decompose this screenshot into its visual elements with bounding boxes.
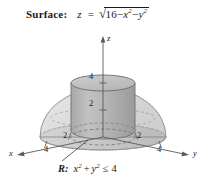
axis-label-z: z <box>107 33 110 43</box>
caption-x-exponent: 2 <box>78 162 82 170</box>
caption-y-exponent: 2 <box>96 162 100 170</box>
z-tick-2: 2 <box>89 98 93 108</box>
y-tick-4: 4 <box>157 144 161 154</box>
z-tick-4: 4 <box>89 71 93 81</box>
surface-cylinder-diagram: Surface: z =√16−x2−y2 <box>0 0 206 183</box>
caption-plus: + <box>84 163 90 174</box>
caption-value: 4 <box>112 163 117 174</box>
y-tick-2: 2 <box>137 130 141 140</box>
diagram-canvas <box>0 0 206 183</box>
axis-label-x: x <box>9 148 13 158</box>
region-expression: x2+y2≤4 <box>74 163 117 174</box>
axis-label-y: y <box>193 148 197 158</box>
x-tick-2: 2 <box>63 130 67 140</box>
region-caption: R:x2+y2≤4 <box>58 163 117 174</box>
region-label: R: <box>58 163 69 174</box>
x-tick-4: 4 <box>44 144 48 154</box>
caption-relation: ≤ <box>103 163 109 174</box>
